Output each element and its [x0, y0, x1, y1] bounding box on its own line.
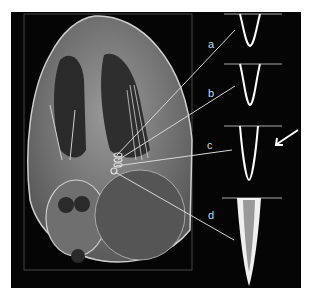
anatomy-diagram [0, 0, 318, 298]
label-c: c [207, 139, 213, 151]
pointer-arrow [276, 130, 298, 145]
tip-profile-a [224, 14, 282, 46]
label-b: b [208, 87, 214, 99]
left-cavity [54, 56, 86, 158]
tip-profile-c [224, 126, 282, 180]
tip-profile-d [222, 198, 282, 286]
label-a: a [208, 38, 214, 50]
right-chamber [95, 170, 185, 260]
label-d: d [208, 209, 214, 221]
tip-profile-b [224, 64, 282, 105]
